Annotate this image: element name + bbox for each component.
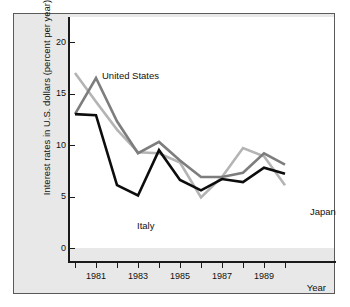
y-tick-label-5: 5: [61, 192, 66, 201]
x-tick-1986: [201, 263, 202, 268]
y-axis-title: Interest rates in U.S. dollars (percent …: [41, 0, 52, 198]
line-series-united-states: [75, 78, 285, 177]
y-tick-label-10: 10: [56, 141, 66, 150]
x-tick-1982: [117, 263, 118, 268]
y-tick-0: [70, 248, 75, 249]
x-tick-1985: [180, 263, 181, 268]
figure-panel: 05101520 19811983198519871989 Interest r…: [13, 13, 335, 294]
y-tick-label-15: 15: [56, 89, 66, 98]
series-annotation-united-states: United States: [102, 71, 159, 81]
y-axis-line: [68, 17, 70, 263]
y-tick-20: [70, 42, 75, 43]
y-tick-5: [70, 197, 75, 198]
x-axis-title: Year: [307, 282, 326, 293]
x-tick-label-1983: 1983: [118, 271, 158, 281]
x-axis-line: [68, 261, 336, 263]
x-tick-1987: [222, 263, 223, 268]
x-tick-1990: [285, 263, 286, 268]
plot-area: [69, 17, 334, 248]
x-tick-label-1985: 1985: [160, 271, 200, 281]
x-tick-1988: [243, 263, 244, 268]
x-tick-label-1981: 1981: [76, 271, 116, 281]
x-tick-1989: [264, 263, 265, 268]
x-tick-label-1987: 1987: [202, 271, 242, 281]
y-tick-15: [70, 94, 75, 95]
series-annotation-japan: Japan: [310, 207, 336, 217]
chart-lines-svg: [69, 17, 334, 248]
x-tick-1980: [75, 263, 76, 268]
y-tick-10: [70, 145, 75, 146]
series-group: [75, 73, 285, 198]
x-tick-label-1989: 1989: [244, 271, 284, 281]
x-tick-1984: [159, 263, 160, 268]
y-tick-label-0: 0: [61, 244, 66, 253]
x-tick-1983: [138, 263, 139, 268]
line-series-japan: [75, 114, 285, 195]
y-tick-label-20: 20: [56, 38, 66, 47]
x-tick-1981: [96, 263, 97, 268]
series-annotation-italy: Italy: [137, 221, 154, 231]
